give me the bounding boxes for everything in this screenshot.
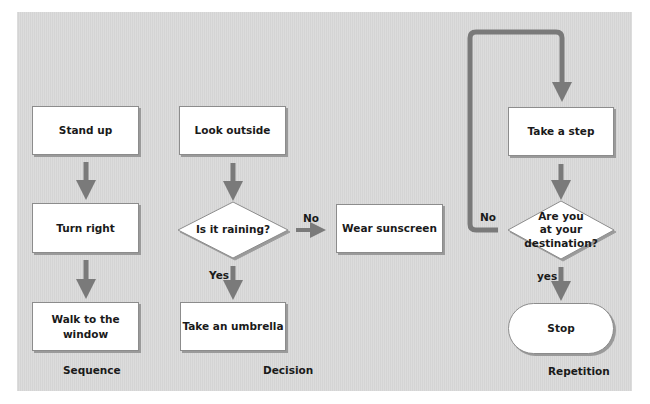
step-turn-right: Turn right [32,203,139,253]
step-label: Stop [547,321,574,335]
step-label: Stand up [59,123,112,137]
step-label-line2: window [63,327,108,341]
caption-repetition: Repetition [548,365,610,377]
question-line: at your [540,223,582,237]
question-line: destination? [524,237,597,251]
step-stand-up: Stand up [32,106,139,155]
step-walk-to-window: Walk to the window [32,302,139,351]
terminal-stop: Stop [508,303,614,354]
caption-decision: Decision [263,364,313,376]
step-look-outside: Look outside [179,106,286,155]
question-destination: Are you at your destination? [508,208,614,252]
step-label-line1: Walk to the [51,312,119,326]
step-take-a-step: Take a step [508,107,614,156]
step-label: Turn right [56,221,115,235]
label-no: No [303,212,319,224]
step-label: Look outside [195,123,271,137]
question-line: Are you [538,210,584,224]
step-label: Take a step [527,124,594,138]
step-wear-sunscreen: Wear sunscreen [336,204,443,253]
caption-sequence: Sequence [63,364,121,376]
label-loop-no: No [480,211,496,223]
label-yes: yes [537,270,557,282]
question-raining: Is it raining? [178,218,288,242]
label-yes: Yes [209,269,229,281]
step-label: Take an umbrella [182,319,283,333]
step-take-umbrella: Take an umbrella [180,302,286,351]
step-label: Wear sunscreen [342,221,437,235]
